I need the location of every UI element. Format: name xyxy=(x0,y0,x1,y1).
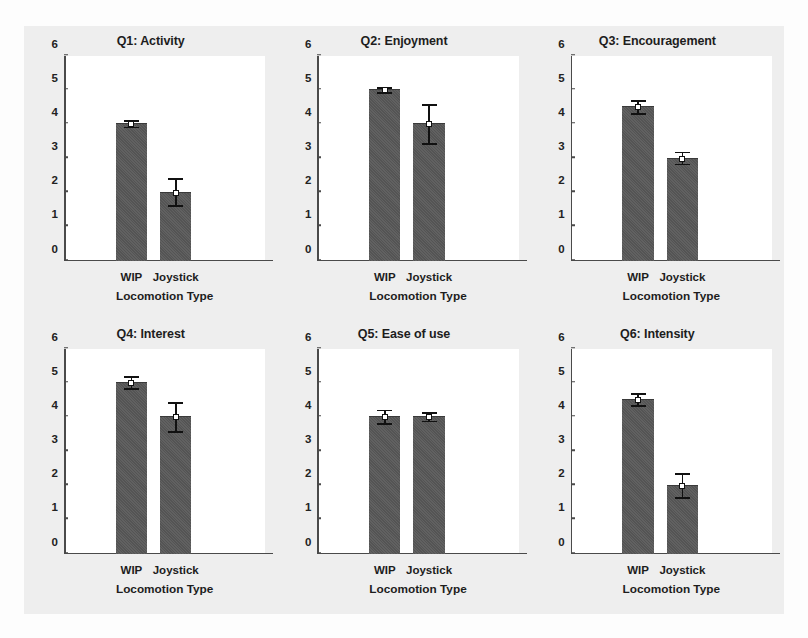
mean-marker xyxy=(679,483,685,489)
x-axis-title: Locomotion Type xyxy=(317,582,518,596)
y-tick-label: 1 xyxy=(52,503,64,515)
y-tick-label: 0 xyxy=(558,537,570,549)
bar[interactable] xyxy=(369,416,400,554)
y-tick-label: 4 xyxy=(305,107,317,119)
y-tick-label: 2 xyxy=(305,468,317,480)
y-tick-label: 2 xyxy=(305,175,317,187)
y-tick-label: 5 xyxy=(52,366,64,378)
mean-marker xyxy=(173,414,179,420)
x-axis-title: Locomotion Type xyxy=(571,582,772,596)
mean-marker xyxy=(128,121,134,127)
mean-marker xyxy=(173,190,179,196)
bar-group[interactable] xyxy=(116,349,147,554)
x-tick-label-joystick: Joystick xyxy=(659,271,705,283)
error-bar-cap-bottom xyxy=(631,113,646,115)
bar-group[interactable] xyxy=(622,349,653,554)
y-tick-label: 0 xyxy=(305,244,317,256)
error-bar-cap-top xyxy=(631,100,646,102)
x-tick-label-joystick: Joystick xyxy=(406,271,452,283)
bar-group[interactable] xyxy=(369,349,400,554)
y-tick-label: 5 xyxy=(558,73,570,85)
bar[interactable] xyxy=(116,123,147,261)
bar-group[interactable] xyxy=(413,56,444,261)
bar[interactable] xyxy=(413,416,444,554)
bar[interactable] xyxy=(369,89,400,261)
chart-panel-1: Q1: Activity0123456WIPJoystickLocomotion… xyxy=(24,26,277,319)
y-tick-label: 6 xyxy=(52,39,64,51)
error-bar-cap-bottom xyxy=(168,205,183,207)
y-tick-label: 6 xyxy=(305,332,317,344)
bar[interactable] xyxy=(667,158,698,262)
chart-panel-3: Q3: Encouragement0123456WIPJoystickLocom… xyxy=(531,26,784,319)
bar[interactable] xyxy=(622,399,653,554)
bar-series xyxy=(64,56,265,261)
bar-group[interactable] xyxy=(116,56,147,261)
y-tick-label: 5 xyxy=(305,366,317,378)
y-tick-label: 1 xyxy=(558,210,570,222)
x-tick-label-joystick: Joystick xyxy=(406,564,452,576)
bar-series xyxy=(571,56,772,261)
y-tick-label: 6 xyxy=(558,332,570,344)
mean-marker xyxy=(426,121,432,127)
x-tick-label-wip: WIP xyxy=(121,564,143,576)
error-bar-cap-top xyxy=(124,376,139,378)
error-bar-cap-top xyxy=(168,402,183,404)
x-axis-title: Locomotion Type xyxy=(317,289,518,303)
error-bar-cap-top xyxy=(168,178,183,180)
y-tick-label: 3 xyxy=(305,141,317,153)
y-tick-label: 6 xyxy=(52,332,64,344)
chart-panel-4: Q4: Interest0123456WIPJoystickLocomotion… xyxy=(24,319,277,612)
error-bar-cap-bottom xyxy=(168,431,183,433)
mean-marker xyxy=(382,414,388,420)
bar[interactable] xyxy=(160,416,191,554)
y-tick-label: 4 xyxy=(305,400,317,412)
y-tick-label: 6 xyxy=(305,39,317,51)
y-tick-label: 1 xyxy=(305,210,317,222)
bar-group[interactable] xyxy=(622,56,653,261)
bar[interactable] xyxy=(116,382,147,554)
mean-marker xyxy=(426,414,432,420)
bar-group[interactable] xyxy=(413,349,444,554)
y-tick-label: 4 xyxy=(558,400,570,412)
error-bar-cap-top xyxy=(377,410,392,412)
error-bar-cap-top xyxy=(422,104,437,106)
x-tick-label-wip: WIP xyxy=(121,271,143,283)
y-tick-label: 0 xyxy=(52,537,64,549)
bar-group[interactable] xyxy=(160,349,191,554)
x-axis-title: Locomotion Type xyxy=(571,289,772,303)
y-tick-label: 2 xyxy=(558,468,570,480)
bar-group[interactable] xyxy=(667,56,698,261)
y-tick-label: 0 xyxy=(558,244,570,256)
panel-grid: Q1: Activity0123456WIPJoystickLocomotion… xyxy=(0,0,808,638)
error-bar-cap-top xyxy=(631,393,646,395)
y-tick-label: 3 xyxy=(52,434,64,446)
y-tick-label: 0 xyxy=(52,244,64,256)
error-bar-cap-bottom xyxy=(377,423,392,425)
bar[interactable] xyxy=(622,106,653,261)
error-bar-cap-bottom xyxy=(675,497,690,499)
y-tick-label: 4 xyxy=(52,107,64,119)
y-tick-label: 4 xyxy=(52,400,64,412)
error-bar-cap-bottom xyxy=(422,421,437,423)
x-tick-label-wip: WIP xyxy=(627,271,649,283)
y-tick-label: 3 xyxy=(558,141,570,153)
y-tick-label: 5 xyxy=(558,366,570,378)
mean-marker xyxy=(128,380,134,386)
bar-series xyxy=(64,349,265,554)
bar-group[interactable] xyxy=(667,349,698,554)
y-tick-label: 3 xyxy=(52,141,64,153)
bar-group[interactable] xyxy=(160,56,191,261)
error-bar-cap-top xyxy=(675,473,690,475)
x-tick-label-wip: WIP xyxy=(374,271,396,283)
x-tick-label-joystick: Joystick xyxy=(659,564,705,576)
mean-marker xyxy=(635,397,641,403)
y-tick-label: 0 xyxy=(305,537,317,549)
y-tick-label: 3 xyxy=(558,434,570,446)
y-tick-label: 1 xyxy=(305,503,317,515)
bar-group[interactable] xyxy=(369,56,400,261)
x-tick-label-joystick: Joystick xyxy=(153,564,199,576)
error-bar-cap-top xyxy=(675,152,690,154)
bar-series xyxy=(317,56,518,261)
bar-series xyxy=(571,349,772,554)
error-bar-cap-bottom xyxy=(631,405,646,407)
